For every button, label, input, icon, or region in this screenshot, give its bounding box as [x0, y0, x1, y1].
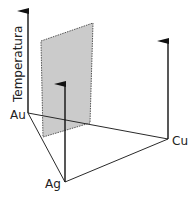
temperature-axis-label: Temperatura	[11, 26, 25, 103]
vertex-label-cu: Cu	[172, 134, 188, 148]
vertex-label-ag: Ag	[45, 177, 61, 191]
diagram-svg: Temperatura Au Ag Cu	[0, 0, 195, 200]
ternary-diagram: Temperatura Au Ag Cu	[0, 0, 195, 200]
edge-ag-cu	[65, 139, 168, 182]
vertex-label-au: Au	[10, 108, 26, 122]
